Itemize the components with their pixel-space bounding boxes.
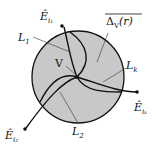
label-base: Ê	[134, 101, 142, 114]
label-sub: iₖ	[142, 108, 147, 116]
label-base: Ê	[5, 129, 13, 142]
endpoint-i2	[23, 127, 27, 131]
endpoint-ik	[135, 90, 139, 94]
endpoint-label-i2: Êi₂	[5, 130, 18, 144]
label-base: Δ	[106, 15, 114, 28]
label-sub: 2	[79, 132, 83, 140]
label-sub: i₂	[13, 136, 18, 144]
endpoint-i1	[60, 24, 64, 28]
vertex-point	[75, 75, 79, 79]
label-base: Ê	[40, 10, 48, 23]
label-sub: k	[133, 66, 137, 74]
label-arg: (r)	[119, 15, 133, 28]
curve-label-l2: L2	[72, 126, 84, 140]
endpoint-label-i1: Êi₁	[40, 11, 53, 25]
endpoint-label-ik: Êiₖ	[134, 102, 147, 116]
disc-closure-label: ΔV(r)	[106, 16, 133, 30]
label-sub: i₁	[48, 17, 53, 25]
vertex-label: V	[55, 58, 63, 69]
curve-label-lk: Lk	[126, 60, 138, 74]
label-sub: 1	[25, 38, 29, 46]
curve-label-l1: L1	[18, 32, 30, 46]
